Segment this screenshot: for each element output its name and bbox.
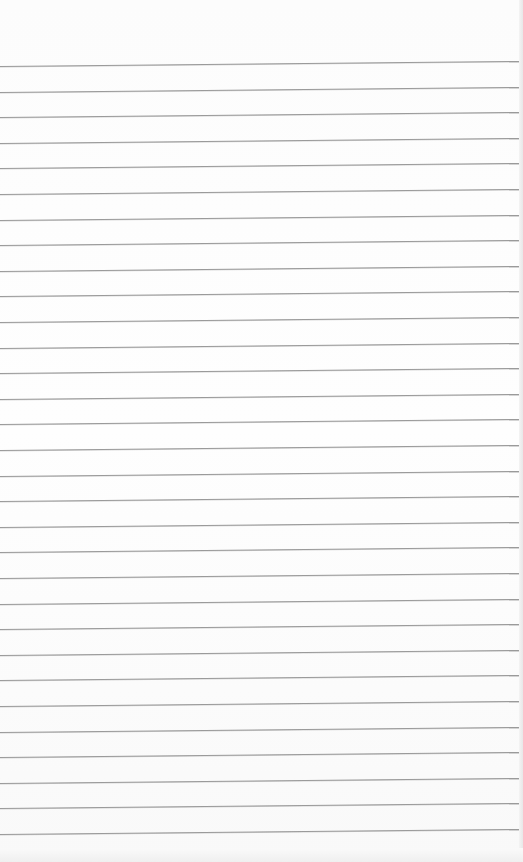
ruled-line <box>0 317 519 323</box>
ruled-line <box>0 240 519 246</box>
ruled-line <box>0 650 519 656</box>
ruled-line <box>0 138 519 144</box>
ruled-line <box>0 496 519 502</box>
ruled-line <box>0 112 519 118</box>
ruled-line <box>0 394 519 400</box>
ruled-line <box>0 573 519 579</box>
ruled-line <box>0 189 519 195</box>
ruled-line <box>0 599 519 605</box>
ruled-line <box>0 752 519 758</box>
ruled-line <box>0 624 519 630</box>
ruled-line <box>0 163 519 169</box>
ruled-line <box>0 522 519 528</box>
paper-bottom-edge <box>0 848 523 862</box>
ruled-line <box>0 419 519 425</box>
ruled-line <box>0 291 519 297</box>
ruled-line <box>0 343 519 349</box>
ruled-line <box>0 445 519 451</box>
ruled-lines <box>0 0 523 862</box>
ruled-line <box>0 727 519 733</box>
lined-paper-sheet <box>0 0 523 862</box>
ruled-line <box>0 778 519 784</box>
ruled-line <box>0 701 519 707</box>
ruled-line <box>0 266 519 272</box>
ruled-line <box>0 61 519 67</box>
ruled-line <box>0 368 519 374</box>
ruled-line <box>0 675 519 681</box>
paper-right-edge <box>519 0 523 862</box>
ruled-line <box>0 829 519 835</box>
ruled-line <box>0 803 519 809</box>
ruled-line <box>0 87 519 93</box>
ruled-line <box>0 547 519 553</box>
ruled-line <box>0 471 519 477</box>
ruled-line <box>0 215 519 221</box>
